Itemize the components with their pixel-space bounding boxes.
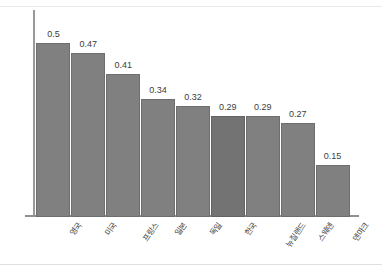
bar[interactable]	[281, 123, 315, 217]
bar[interactable]	[36, 43, 70, 217]
bar[interactable]	[176, 106, 210, 217]
bar-value-label: 0.15	[324, 151, 342, 162]
x-axis-labels: 영국미국프랑스일본독일한국뉴질랜드스웨덴덴마크	[0, 217, 382, 270]
bar[interactable]	[141, 99, 175, 217]
bar-group[interactable]: 0.29	[211, 1, 245, 217]
bar-group[interactable]: 0.47	[71, 1, 105, 217]
bar[interactable]	[71, 53, 105, 217]
bar-group[interactable]: 0.27	[281, 1, 315, 217]
x-axis-tick-label: 스웨덴	[316, 221, 336, 244]
bar[interactable]	[211, 116, 245, 217]
x-axis-tick-label: 미국	[103, 221, 119, 238]
bar-group[interactable]: 0.41	[106, 1, 140, 217]
bar-group[interactable]: 0.32	[176, 1, 210, 217]
bar-value-label: 0.32	[184, 92, 202, 103]
bar-value-label: 0.34	[149, 85, 167, 96]
bar-value-label: 0.47	[80, 39, 98, 50]
x-axis-tick-label: 프랑스	[141, 221, 161, 244]
bar-value-label: 0.29	[254, 102, 272, 113]
x-axis-tick-label: 일본	[173, 221, 189, 238]
bar-group[interactable]: 0.5	[36, 1, 70, 217]
bar-value-label: 0.29	[219, 102, 237, 113]
bar-value-label: 0.5	[47, 29, 60, 40]
bar-group[interactable]: 0.34	[141, 1, 175, 217]
bar[interactable]	[106, 74, 140, 217]
x-axis-tick-label: 한국	[243, 221, 259, 238]
bar[interactable]	[246, 116, 280, 217]
bar-group[interactable]: 0.29	[246, 1, 280, 217]
bar-group[interactable]: 0.15	[316, 1, 350, 217]
bar-value-label: 0.27	[289, 109, 307, 120]
bars-container: 0.50.470.410.340.320.290.290.270.15	[0, 0, 382, 217]
bar[interactable]	[316, 165, 350, 217]
x-axis-tick-label: 덴마크	[351, 221, 371, 244]
x-axis-tick-label: 뉴질랜드	[284, 221, 308, 250]
x-axis-tick-label: 영국	[68, 221, 84, 238]
x-axis-tick-label: 독일	[208, 221, 224, 238]
bar-value-label: 0.41	[114, 60, 132, 71]
bar-chart: 0.50.470.410.340.320.290.290.270.15 영국미국…	[0, 0, 382, 270]
